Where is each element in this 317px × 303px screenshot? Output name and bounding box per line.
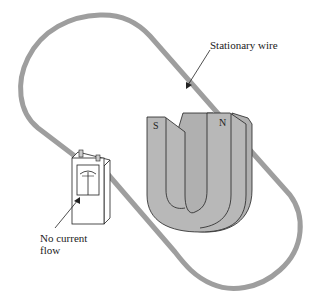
- wire-pointer-arrow: [188, 50, 210, 85]
- north-pole-label: N: [219, 117, 226, 128]
- terminal-right: [96, 155, 100, 161]
- wire-label: Stationary wire: [210, 39, 278, 51]
- meter-label-line1: No current: [40, 232, 87, 244]
- meter-label-line2: flow: [40, 244, 60, 256]
- diagram-figure: Stationary wire No current flow S N: [0, 0, 317, 303]
- south-pole-label: S: [153, 120, 159, 131]
- terminal-left: [79, 150, 83, 157]
- galvanometer: [72, 150, 110, 224]
